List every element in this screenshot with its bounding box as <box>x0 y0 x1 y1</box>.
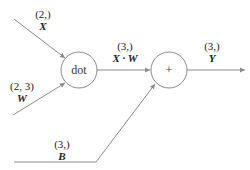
b-name-label: B <box>57 150 65 162</box>
add-node: + <box>151 52 187 88</box>
dot-node: dot <box>61 52 97 88</box>
xw-name-label: X · W <box>111 52 138 64</box>
edge-b-to-add <box>14 84 155 162</box>
w-name-label: W <box>17 92 28 104</box>
computational-graph: dot + (2,) X (2, 3) W (3,) X · W (3,) Y … <box>0 0 250 170</box>
add-node-label: + <box>166 63 173 77</box>
x-name-label: X <box>38 20 47 32</box>
dot-node-label: dot <box>71 63 87 77</box>
y-name-label: Y <box>209 52 217 64</box>
